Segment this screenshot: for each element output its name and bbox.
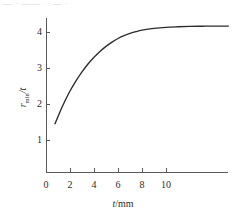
data-series-group — [55, 26, 228, 124]
x-tick-marks — [71, 168, 167, 172]
y-tick-label: 1 — [30, 135, 42, 145]
y-axis-title-rest: /t — [17, 88, 28, 94]
x-axis-title: t/mm — [112, 198, 133, 209]
y-axis-title: rmin/t — [17, 74, 32, 122]
y-axis-title-subscript: min — [23, 93, 30, 103]
chart-figure: — · —— ·· — · 0246810 1234 t/mm rmin/t — [0, 0, 242, 216]
axes-group — [46, 18, 228, 173]
y-axis-title-var: r — [17, 103, 28, 107]
data-curve-rmin-over-t — [55, 26, 228, 124]
x-tick-label: 6 — [116, 180, 121, 190]
x-tick-label: 10 — [161, 180, 171, 190]
x-tick-label: 8 — [140, 180, 145, 190]
y-tick-label: 3 — [30, 63, 42, 73]
x-axis-title-unit: /mm — [115, 198, 133, 209]
x-tick-label: 0 — [44, 180, 49, 190]
x-tick-label: 4 — [92, 180, 97, 190]
y-tick-label: 2 — [30, 99, 42, 109]
x-tick-label: 2 — [68, 180, 73, 190]
y-tick-label: 4 — [30, 27, 42, 37]
